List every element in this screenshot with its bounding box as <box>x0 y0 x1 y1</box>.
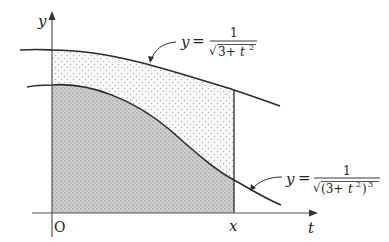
svg-text:1: 1 <box>343 164 351 178</box>
svg-text:(3+: (3+ <box>321 182 343 196</box>
svg-text:√: √ <box>313 181 321 195</box>
svg-text:1: 1 <box>230 26 238 40</box>
svg-text:=: = <box>298 169 311 187</box>
svg-text:t: t <box>240 45 245 59</box>
t-axis-label: t <box>308 219 315 237</box>
y-axis-arrow-icon <box>49 11 56 20</box>
svg-text:=: = <box>192 32 205 50</box>
lower-formula: y = 1 √ (3+ t 2 ) 3 <box>285 164 380 196</box>
upper-formula: y = 1 √ 3+ t 2 <box>180 26 257 59</box>
svg-text:y: y <box>180 33 190 51</box>
svg-text:2: 2 <box>249 43 254 52</box>
lower-label-leader <box>252 177 282 189</box>
svg-text:√: √ <box>209 44 217 58</box>
upper-leader-arrow-icon <box>148 56 154 63</box>
svg-text:t: t <box>348 182 353 196</box>
t-axis-arrow-icon <box>309 210 318 217</box>
origin-label: O <box>54 219 65 235</box>
svg-text:3: 3 <box>368 180 373 189</box>
svg-text:2: 2 <box>356 180 361 189</box>
svg-text:): ) <box>362 182 367 196</box>
upper-label-leader <box>151 42 176 61</box>
y-axis-label: y <box>37 12 47 30</box>
svg-text:3+: 3+ <box>218 45 236 59</box>
x-marker-label: x <box>229 217 238 235</box>
area-diagram: y t O x y = 1 √ 3+ t 2 y = 1 √ (3+ t 2 )… <box>0 0 389 242</box>
svg-text:y: y <box>285 170 295 188</box>
